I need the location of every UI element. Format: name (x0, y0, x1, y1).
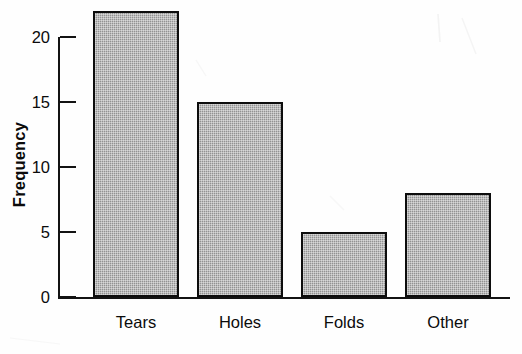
y-tick-mark-20 (60, 36, 76, 38)
y-tick-label-5: 5 (6, 224, 50, 241)
bar-chart-figure: Frequency 05101520 TearsHolesFoldsOther (0, 0, 522, 354)
bar-holes (197, 102, 283, 297)
bar-other (405, 193, 491, 297)
y-tick-label-10: 10 (6, 159, 50, 176)
category-label-tears: Tears (93, 314, 179, 331)
y-tick-mark-0 (60, 296, 76, 298)
y-axis-line (58, 37, 60, 299)
y-tick-mark-15 (60, 101, 76, 103)
bar-tears (93, 11, 179, 297)
y-tick-label-0: 0 (6, 289, 50, 306)
category-label-other: Other (405, 314, 491, 331)
category-label-folds: Folds (301, 314, 387, 331)
x-axis-line (58, 297, 510, 299)
bar-folds (301, 232, 387, 297)
y-tick-mark-5 (60, 231, 76, 233)
y-tick-label-20: 20 (6, 29, 50, 46)
category-label-holes: Holes (197, 314, 283, 331)
y-tick-label-15: 15 (6, 94, 50, 111)
plot-area: 05101520 TearsHolesFoldsOther (58, 8, 510, 299)
y-tick-mark-10 (60, 166, 76, 168)
